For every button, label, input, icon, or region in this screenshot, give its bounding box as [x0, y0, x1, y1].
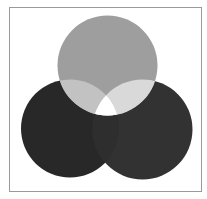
three-circle-venn-diagram [0, 0, 207, 199]
